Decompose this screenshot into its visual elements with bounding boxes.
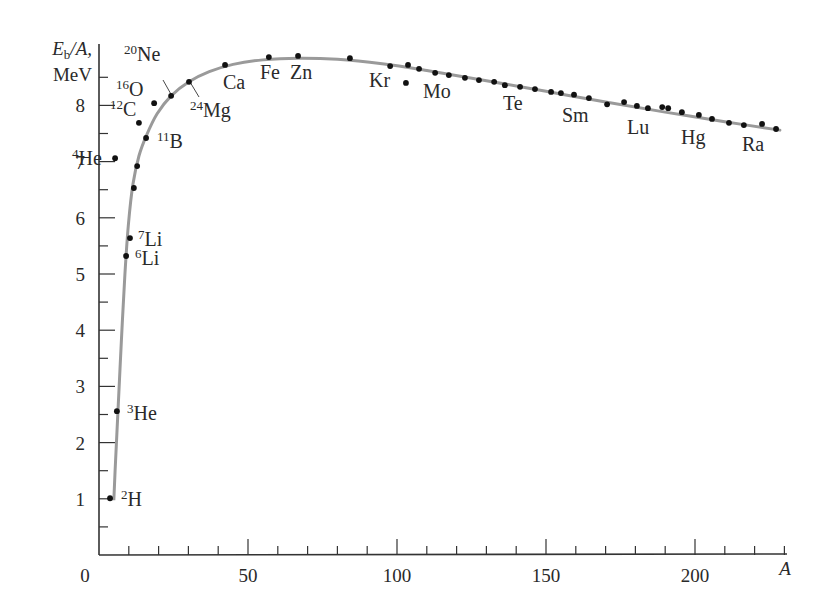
fit-curve-path: [110, 58, 780, 499]
y-axis-label-line2: MeV: [53, 64, 92, 85]
data-point: [726, 120, 732, 126]
data-point: [548, 89, 554, 95]
data-point: [114, 408, 120, 414]
data-point: [517, 84, 523, 90]
data-point: [416, 66, 422, 72]
data-point: [186, 79, 192, 85]
y-tick-label: 4: [76, 320, 86, 341]
data-point: [446, 72, 452, 78]
x-tick-label: 200: [681, 565, 710, 586]
data-point: [127, 235, 133, 241]
nuclide-label: 12C: [110, 97, 136, 120]
nuclide-label: Lu: [627, 116, 649, 138]
data-point: [151, 100, 157, 106]
y-tick-label: 3: [76, 376, 86, 397]
y-axis-label-line1: Eb/A,: [51, 38, 92, 62]
x-tick-label: 0: [80, 565, 90, 586]
data-point: [222, 62, 228, 68]
data-point: [403, 80, 409, 86]
nuclide-label: Kr: [369, 69, 390, 91]
data-point: [773, 126, 779, 132]
x-axis-label: A: [777, 558, 791, 579]
y-tick-label: 1: [76, 489, 86, 510]
nuclide-label: Zn: [290, 61, 312, 83]
data-point: [123, 253, 129, 259]
data-point: [502, 82, 508, 88]
x-tick-label: 100: [383, 565, 412, 586]
data-point: [634, 103, 640, 109]
data-point: [405, 62, 411, 68]
y-tick-label: 6: [76, 208, 86, 229]
data-point: [645, 105, 651, 111]
data-point: [621, 99, 627, 105]
x-tick-label: 150: [532, 565, 561, 586]
data-point: [112, 155, 118, 161]
data-point: [586, 95, 592, 101]
nuclide-label: 24Mg: [190, 98, 231, 122]
nuclide-label: 20Ne: [124, 42, 160, 65]
x-axis-line: [99, 554, 787, 555]
data-point: [696, 112, 702, 118]
data-point: [462, 75, 468, 81]
data-point: [131, 185, 137, 191]
fit-curve: [110, 58, 780, 499]
nuclide-label: Te: [503, 92, 523, 114]
axis-ticks: [99, 77, 784, 555]
y-tick-label: 8: [76, 95, 86, 116]
nuclide-label: 2H: [121, 487, 142, 510]
data-point: [741, 122, 747, 128]
y-tick-label: 2: [76, 433, 86, 454]
nuclide-label: Ca: [223, 71, 245, 93]
data-point: [571, 92, 577, 98]
data-point: [558, 90, 564, 96]
nuclide-label: Fe: [260, 61, 280, 83]
data-point: [759, 121, 765, 127]
nuclide-label: Hg: [681, 126, 705, 149]
data-point: [168, 93, 174, 99]
data-point: [295, 53, 301, 59]
data-point: [665, 105, 671, 111]
nuclide-label: Sm: [562, 104, 589, 126]
data-point: [266, 54, 272, 60]
nuclide-label: 11B: [157, 129, 183, 152]
nuclide-label: Mo: [423, 80, 451, 102]
data-point: [659, 104, 665, 110]
data-point: [679, 109, 685, 115]
axis-tick-labels: 05010015020012345678: [76, 95, 710, 586]
binding-energy-chart: 05010015020012345678 2H3He6Li7Li4He11B12…: [0, 0, 840, 610]
leader-line: [190, 82, 199, 97]
data-point: [136, 120, 142, 126]
data-point: [709, 116, 715, 122]
nuclide-label: 3He: [127, 401, 157, 424]
data-point: [432, 70, 438, 76]
nuclide-label: Ra: [742, 133, 764, 155]
data-point: [476, 77, 482, 83]
y-tick-label: 5: [76, 264, 86, 285]
data-point: [143, 135, 149, 141]
data-point: [532, 86, 538, 92]
data-point: [604, 101, 610, 107]
data-point: [491, 79, 497, 85]
data-point: [107, 495, 113, 501]
data-point: [134, 163, 140, 169]
x-tick-label: 50: [239, 565, 258, 586]
data-point: [347, 55, 353, 61]
